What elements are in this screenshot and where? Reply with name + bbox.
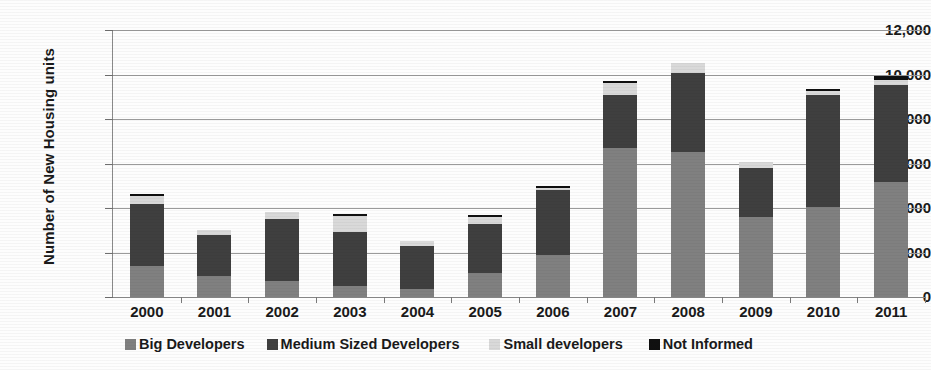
bar-segment-medium-sized-developers[interactable] — [536, 190, 570, 255]
legend-swatch-icon — [125, 339, 136, 350]
legend-item-medium-sized-developers[interactable]: Medium Sized Developers — [267, 337, 460, 352]
bar-segment-not-informed[interactable] — [468, 215, 502, 217]
stacked-bar[interactable] — [536, 30, 570, 297]
bar-segment-not-informed[interactable] — [130, 194, 164, 196]
legend-label: Medium Sized Developers — [281, 337, 460, 352]
bar-group-2005[interactable] — [451, 30, 519, 297]
bar-segment-medium-sized-developers[interactable] — [265, 219, 299, 281]
x-tick-label-2011: 2011 — [856, 303, 926, 320]
x-tick-label-2009: 2009 — [721, 303, 791, 320]
bar-segment-small-developers[interactable] — [130, 196, 164, 204]
y-tick-mark-6000 — [105, 164, 113, 165]
legend-label: Small developers — [503, 337, 622, 352]
bar-segment-small-developers[interactable] — [806, 91, 840, 94]
y-tick-mark-2000 — [105, 253, 113, 254]
bar-segment-medium-sized-developers[interactable] — [468, 224, 502, 273]
chart-legend: Big DevelopersMedium Sized DevelopersSma… — [125, 333, 915, 355]
stacked-bar[interactable] — [806, 30, 840, 297]
bar-segment-big-developers[interactable] — [671, 152, 705, 297]
bar-segment-medium-sized-developers[interactable] — [400, 246, 434, 289]
bar-segment-small-developers[interactable] — [197, 230, 231, 234]
legend-item-not-informed[interactable]: Not Informed — [649, 337, 753, 352]
bar-segment-medium-sized-developers[interactable] — [671, 73, 705, 152]
y-tick-mark-0 — [105, 297, 113, 298]
bar-segment-not-informed[interactable] — [806, 89, 840, 91]
bar-segment-medium-sized-developers[interactable] — [806, 95, 840, 207]
stacked-bar[interactable] — [874, 30, 908, 297]
bar-segment-small-developers[interactable] — [603, 83, 637, 94]
bar-segment-big-developers[interactable] — [333, 286, 367, 297]
legend-item-big-developers[interactable]: Big Developers — [125, 337, 245, 352]
bar-segment-not-informed[interactable] — [536, 186, 570, 188]
stacked-bar[interactable] — [197, 30, 231, 297]
stacked-bar[interactable] — [333, 30, 367, 297]
bar-group-2003[interactable] — [316, 30, 384, 297]
bar-segment-medium-sized-developers[interactable] — [130, 204, 164, 266]
bar-group-2011[interactable] — [857, 30, 925, 297]
legend-label: Not Informed — [663, 337, 753, 352]
y-tick-mark-12000 — [105, 30, 113, 31]
bar-segment-small-developers[interactable] — [671, 63, 705, 73]
y-tick-mark-10000 — [105, 75, 113, 76]
stacked-bar[interactable] — [130, 30, 164, 297]
y-axis-title: Number of New Housing units — [40, 17, 57, 297]
x-tick-label-2001: 2001 — [180, 303, 250, 320]
bar-segment-medium-sized-developers[interactable] — [197, 235, 231, 276]
bar-series-container — [113, 30, 925, 297]
legend-item-small-developers[interactable]: Small developers — [489, 337, 622, 352]
bar-segment-big-developers[interactable] — [874, 182, 908, 297]
x-tick-label-2006: 2006 — [518, 303, 588, 320]
bar-segment-small-developers[interactable] — [536, 188, 570, 190]
bar-segment-big-developers[interactable] — [197, 276, 231, 297]
stacked-bar[interactable] — [739, 30, 773, 297]
legend-swatch-icon — [649, 339, 660, 350]
x-tick-mark-11 — [925, 297, 926, 303]
x-tick-label-2005: 2005 — [450, 303, 520, 320]
bar-group-2008[interactable] — [654, 30, 722, 297]
stacked-bar[interactable] — [671, 30, 705, 297]
bar-segment-medium-sized-developers[interactable] — [739, 168, 773, 217]
bar-segment-big-developers[interactable] — [739, 217, 773, 297]
bar-group-2006[interactable] — [519, 30, 587, 297]
housing-units-stacked-bar-chart: Number of New Housing units 12,00010,000… — [0, 0, 931, 370]
bar-segment-small-developers[interactable] — [265, 212, 299, 219]
bar-segment-big-developers[interactable] — [806, 207, 840, 297]
y-tick-mark-4000 — [105, 208, 113, 209]
bar-segment-not-informed[interactable] — [603, 81, 637, 83]
x-tick-label-2003: 2003 — [315, 303, 385, 320]
bar-segment-big-developers[interactable] — [536, 255, 570, 297]
bar-segment-small-developers[interactable] — [874, 80, 908, 84]
bar-segment-big-developers[interactable] — [265, 281, 299, 297]
bar-segment-not-informed[interactable] — [874, 76, 908, 80]
bar-segment-medium-sized-developers[interactable] — [874, 85, 908, 183]
bar-group-2002[interactable] — [248, 30, 316, 297]
bar-group-2004[interactable] — [384, 30, 452, 297]
stacked-bar[interactable] — [603, 30, 637, 297]
bar-group-2009[interactable] — [722, 30, 790, 297]
bar-segment-medium-sized-developers[interactable] — [603, 95, 637, 148]
bar-segment-not-informed[interactable] — [333, 214, 367, 216]
stacked-bar[interactable] — [265, 30, 299, 297]
bar-segment-big-developers[interactable] — [603, 148, 637, 297]
stacked-bar[interactable] — [400, 30, 434, 297]
bar-segment-small-developers[interactable] — [333, 216, 367, 233]
bar-segment-small-developers[interactable] — [739, 162, 773, 168]
x-tick-label-2007: 2007 — [586, 303, 656, 320]
x-tick-label-2002: 2002 — [247, 303, 317, 320]
bar-segment-small-developers[interactable] — [468, 217, 502, 224]
x-tick-label-2008: 2008 — [653, 303, 723, 320]
bar-segment-big-developers[interactable] — [468, 273, 502, 297]
bar-group-2001[interactable] — [181, 30, 249, 297]
bar-group-2000[interactable] — [113, 30, 181, 297]
legend-swatch-icon — [489, 339, 500, 350]
y-tick-mark-8000 — [105, 119, 113, 120]
bar-segment-medium-sized-developers[interactable] — [333, 232, 367, 285]
bar-segment-big-developers[interactable] — [400, 289, 434, 297]
x-tick-label-2010: 2010 — [789, 303, 859, 320]
stacked-bar[interactable] — [468, 30, 502, 297]
bar-group-2007[interactable] — [587, 30, 655, 297]
plot-area — [113, 30, 925, 297]
bar-group-2010[interactable] — [790, 30, 858, 297]
bar-segment-big-developers[interactable] — [130, 266, 164, 297]
bar-segment-small-developers[interactable] — [400, 241, 434, 245]
